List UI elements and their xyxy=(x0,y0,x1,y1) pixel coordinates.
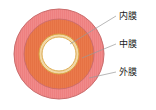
label-intima: 内膜 xyxy=(119,11,137,21)
label-media: 中膜 xyxy=(119,39,137,49)
figure-canvas: 内膜 中膜 外膜 xyxy=(0,0,156,110)
label-adventitia: 外膜 xyxy=(119,67,137,77)
vessel-lumen xyxy=(42,37,76,71)
